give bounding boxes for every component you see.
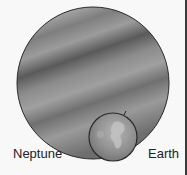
- neptune-label: Neptune: [13, 147, 62, 160]
- earth-label: Earth: [148, 147, 179, 160]
- earth-body: [89, 113, 137, 161]
- figure-frame: Neptune Earth: [0, 0, 187, 175]
